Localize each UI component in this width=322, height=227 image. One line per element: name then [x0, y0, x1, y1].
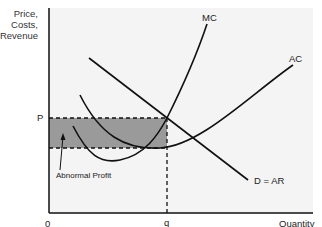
x-axis-label: Quantity [279, 219, 314, 227]
ac-label: AC [289, 54, 302, 64]
quantity-q-label: q [164, 218, 169, 227]
demand-label: D = AR [254, 176, 284, 186]
economics-diagram [0, 0, 322, 227]
price-label: P [37, 113, 43, 123]
origin-label: 0 [45, 219, 50, 227]
abnormal-profit-label: Abnormal Profit [56, 172, 111, 180]
mc-label: MC [202, 13, 217, 23]
